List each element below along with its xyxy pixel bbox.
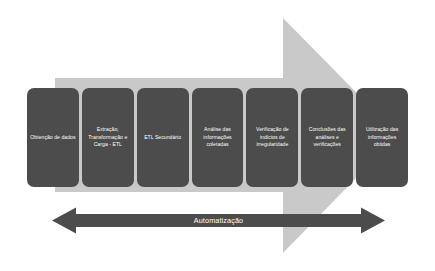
automation-label: Automatização bbox=[52, 211, 385, 230]
process-flow-diagram: Obtenção de dados Extração, Transformaçã… bbox=[0, 0, 435, 271]
automation-double-arrow bbox=[0, 0, 435, 271]
automation-label-text: Automatização bbox=[194, 216, 244, 225]
